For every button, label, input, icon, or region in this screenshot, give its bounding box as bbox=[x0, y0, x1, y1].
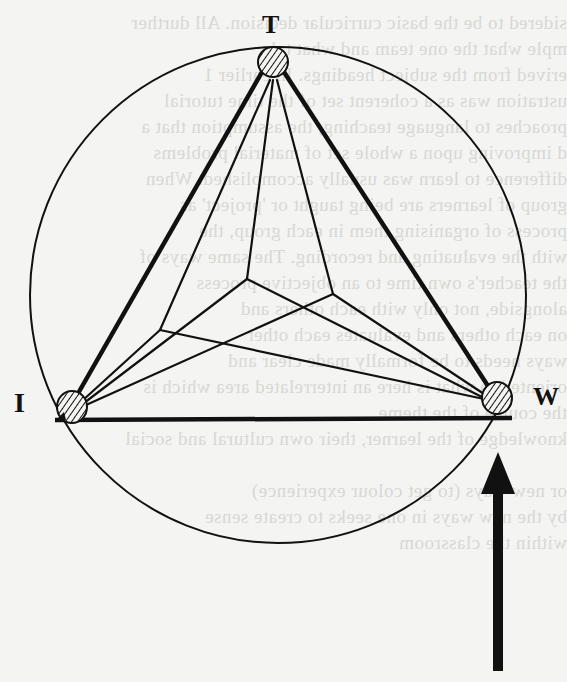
node-t bbox=[258, 47, 288, 77]
node-label-w: W bbox=[533, 382, 559, 412]
edge-t-c bbox=[160, 80, 270, 330]
node-i bbox=[56, 391, 87, 423]
edge-t-a bbox=[247, 80, 273, 279]
edge-c-w bbox=[160, 330, 484, 399]
node-label-i: I bbox=[14, 387, 25, 419]
inner-edges bbox=[82, 80, 484, 405]
triangle-circle-diagram bbox=[0, 0, 567, 682]
edge-a-w bbox=[247, 279, 482, 397]
edge-t-i bbox=[76, 72, 262, 397]
scanned-page: sidered to be the basic curricular decis… bbox=[0, 0, 567, 682]
edge-i-w bbox=[55, 418, 512, 420]
up-arrow-icon bbox=[481, 452, 515, 671]
edge-t-b bbox=[277, 80, 333, 294]
node-w bbox=[482, 382, 512, 414]
node-label-t: T bbox=[262, 10, 279, 40]
edge-t-w bbox=[284, 72, 488, 386]
